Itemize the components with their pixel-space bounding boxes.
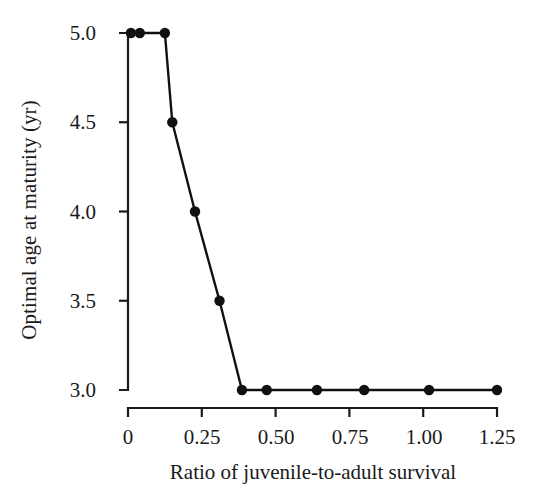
data-point-marker [190,206,200,216]
data-point-marker [126,28,136,38]
y-axis [119,33,128,390]
data-point-marker [160,28,170,38]
data-point-marker [167,117,177,127]
data-point-marker [237,385,247,395]
data-point-marker [135,28,145,38]
plot-area [0,0,542,497]
chart-figure: Optimal age at maturity (yr) 5.0 4.5 4.0… [0,0,542,497]
series-line [131,33,497,390]
data-point-marker [214,296,224,306]
data-point-marker [262,385,272,395]
data-point-marker [492,385,502,395]
x-axis-ticks [202,408,423,417]
x-axis [128,408,497,417]
series-markers [126,28,502,395]
data-point-marker [359,385,369,395]
data-series-group [126,28,502,395]
y-axis-ticks [119,122,128,301]
data-point-marker [312,385,322,395]
data-point-marker [424,385,434,395]
